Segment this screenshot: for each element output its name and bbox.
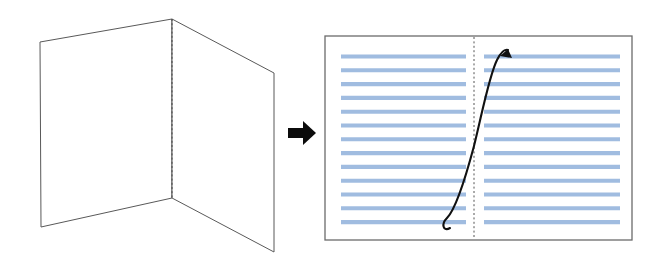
folded-card-side-panel	[172, 19, 274, 252]
folded-card-front-panel	[40, 19, 172, 227]
open-spread-group	[325, 36, 632, 240]
diagram-root	[0, 0, 659, 264]
folded-card-group	[40, 19, 274, 252]
transition-arrow-head-icon	[303, 121, 316, 145]
diagram-canvas	[0, 0, 659, 264]
transition-arrow-group	[288, 121, 316, 145]
